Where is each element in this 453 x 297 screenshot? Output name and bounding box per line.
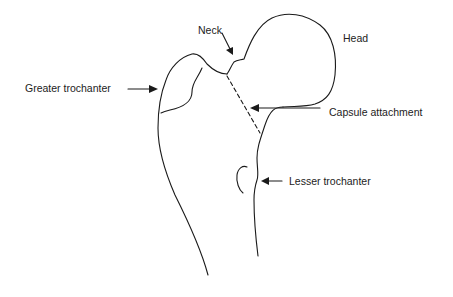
label-head: Head xyxy=(343,33,368,44)
capsule-attachment-line xyxy=(227,76,260,133)
neck-arrow-shaft xyxy=(222,33,231,51)
greater-trochanter-arrowhead-icon xyxy=(149,85,158,93)
lesser-trochanter-arrowhead-icon xyxy=(261,177,269,185)
capsule-arrowhead-icon xyxy=(250,104,259,112)
lesser-trochanter-outline xyxy=(237,166,247,193)
label-capsule-attachment: Capsule attachment xyxy=(329,107,422,118)
label-greater-trochanter: Greater trochanter xyxy=(25,83,111,94)
greater-trochanter-ridge xyxy=(161,68,202,113)
label-lesser-trochanter: Lesser trochanter xyxy=(289,176,371,187)
femur-outline-drawing xyxy=(0,0,453,297)
neck-outline xyxy=(227,14,335,107)
label-neck: Neck xyxy=(198,25,222,36)
femur-diagram: Neck Head Greater trochanter Capsule att… xyxy=(0,0,453,297)
